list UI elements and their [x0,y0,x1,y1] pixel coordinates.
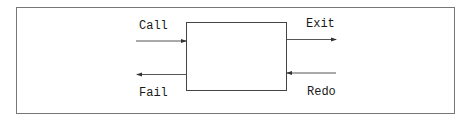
port-diagram: Call Fail Exit Redo [0,0,467,118]
call-label: Call [139,19,168,33]
exit-label: Exit [306,17,335,31]
procedure-box [187,23,287,91]
outer-frame [17,8,455,114]
redo-label: Redo [307,85,336,99]
fail-label: Fail [139,86,168,100]
